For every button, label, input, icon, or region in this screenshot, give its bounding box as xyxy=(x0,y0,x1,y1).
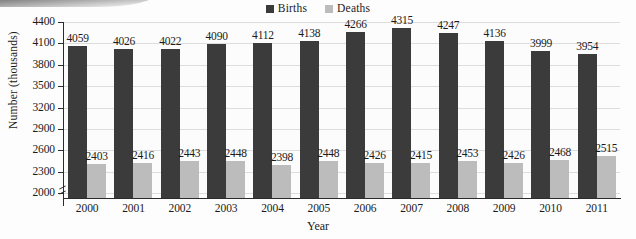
bar-births-2010 xyxy=(531,51,550,198)
x-axis-line xyxy=(63,198,621,199)
bar-value-label: 2416 xyxy=(126,149,159,161)
legend-swatch-icon xyxy=(325,5,333,13)
axis-break-icon xyxy=(58,186,66,198)
bar-value-label: 2448 xyxy=(312,147,345,159)
bar-value-label: 4247 xyxy=(432,19,465,31)
y-tick-label: 2600 xyxy=(0,143,55,155)
bar-deaths-2011 xyxy=(597,156,616,198)
bar-deaths-2005 xyxy=(319,161,338,198)
y-tick-label: 2000 xyxy=(0,186,55,198)
births-deaths-bar-chart: BirthsDeaths Number (thousands) 40592403… xyxy=(0,0,636,239)
bar-deaths-2006 xyxy=(365,163,384,198)
bar-deaths-2008 xyxy=(458,161,477,198)
x-tick-label: 2005 xyxy=(296,202,342,214)
x-tick-label: 2007 xyxy=(388,202,434,214)
y-tick-mark xyxy=(58,108,64,109)
bar-value-label: 2448 xyxy=(219,147,252,159)
x-tick-label: 2000 xyxy=(64,202,110,214)
y-tick-mark xyxy=(58,129,64,130)
y-tick-label: 2900 xyxy=(0,122,55,134)
bar-value-label: 4138 xyxy=(293,27,326,39)
bar-births-2000 xyxy=(68,46,87,198)
bar-group: 39992468 xyxy=(527,22,573,198)
chart-legend: BirthsDeaths xyxy=(0,2,636,14)
bar-group: 42662426 xyxy=(342,22,388,198)
bar-deaths-2000 xyxy=(87,164,106,198)
bar-group: 39542515 xyxy=(574,22,620,198)
bar-group: 41122398 xyxy=(249,22,295,198)
bar-group: 40902448 xyxy=(203,22,249,198)
bar-value-label: 2426 xyxy=(358,149,391,161)
bar-value-label: 3999 xyxy=(525,37,558,49)
bar-group: 40262416 xyxy=(110,22,156,198)
legend-swatch-icon xyxy=(266,5,274,13)
legend-label: Births xyxy=(278,2,307,14)
bar-births-2004 xyxy=(253,43,272,198)
y-tick-mark xyxy=(58,150,64,151)
y-axis-line xyxy=(63,22,64,206)
bar-births-2001 xyxy=(114,49,133,198)
y-tick-mark xyxy=(58,43,64,44)
x-tick-label: 2003 xyxy=(203,202,249,214)
y-tick-label: 4100 xyxy=(0,36,55,48)
bar-deaths-2002 xyxy=(180,161,199,198)
bar-value-label: 2403 xyxy=(80,150,113,162)
x-tick-label: 2006 xyxy=(342,202,388,214)
y-tick-label: 3200 xyxy=(0,101,55,113)
bar-deaths-2010 xyxy=(550,160,569,198)
plot-area: 4059240340262416402224434090244841122398… xyxy=(64,22,620,198)
bar-deaths-2001 xyxy=(133,163,152,198)
y-tick-label: 3800 xyxy=(0,58,55,70)
y-tick-label: 4400 xyxy=(0,15,55,27)
bar-value-label: 2453 xyxy=(451,147,484,159)
bar-births-2002 xyxy=(161,49,180,198)
bar-births-2008 xyxy=(439,33,458,198)
x-tick-label: 2009 xyxy=(481,202,527,214)
x-tick-label: 2004 xyxy=(249,202,295,214)
x-tick-label: 2008 xyxy=(435,202,481,214)
x-tick-label: 2001 xyxy=(110,202,156,214)
bar-group: 41382448 xyxy=(296,22,342,198)
bar-value-label: 4059 xyxy=(61,32,94,44)
legend-entry-deaths: Deaths xyxy=(325,2,370,14)
y-tick-label: 3500 xyxy=(0,79,55,91)
bar-value-label: 2443 xyxy=(173,147,206,159)
bar-births-2006 xyxy=(346,32,365,198)
bar-group: 43152415 xyxy=(388,22,434,198)
bar-group: 41362426 xyxy=(481,22,527,198)
x-axis-title: Year xyxy=(0,219,636,234)
bar-value-label: 2426 xyxy=(497,149,530,161)
bar-value-label: 2398 xyxy=(265,151,298,163)
bar-deaths-2003 xyxy=(226,161,245,198)
bar-deaths-2004 xyxy=(272,165,291,198)
y-tick-label: 2300 xyxy=(0,165,55,177)
x-tick-label: 2011 xyxy=(574,202,620,214)
bar-value-label: 4266 xyxy=(339,18,372,30)
bar-births-2007 xyxy=(392,28,411,198)
y-tick-mark xyxy=(58,172,64,173)
bar-births-2009 xyxy=(485,41,504,198)
bar-value-label: 3954 xyxy=(571,40,604,52)
x-tick-label: 2002 xyxy=(157,202,203,214)
bar-births-2003 xyxy=(207,44,226,198)
bar-births-2005 xyxy=(300,41,319,198)
bar-group: 40222443 xyxy=(157,22,203,198)
x-tick-label: 2010 xyxy=(527,202,573,214)
legend-entry-births: Births xyxy=(266,2,307,14)
bar-value-label: 2515 xyxy=(590,142,623,154)
bar-group: 40592403 xyxy=(64,22,110,198)
bar-value-label: 4315 xyxy=(386,14,419,26)
bar-value-label: 2468 xyxy=(543,146,576,158)
y-tick-mark xyxy=(58,65,64,66)
y-tick-mark xyxy=(58,86,64,87)
bar-deaths-2007 xyxy=(411,163,430,198)
bar-value-label: 4026 xyxy=(108,35,141,47)
bar-value-label: 4112 xyxy=(247,29,280,41)
y-tick-mark xyxy=(58,22,64,23)
bar-group: 42472453 xyxy=(435,22,481,198)
bar-deaths-2009 xyxy=(504,163,523,198)
bar-value-label: 2415 xyxy=(404,149,437,161)
bar-births-2011 xyxy=(578,54,597,198)
y-tick-mark xyxy=(58,193,64,194)
legend-label: Deaths xyxy=(337,2,370,14)
